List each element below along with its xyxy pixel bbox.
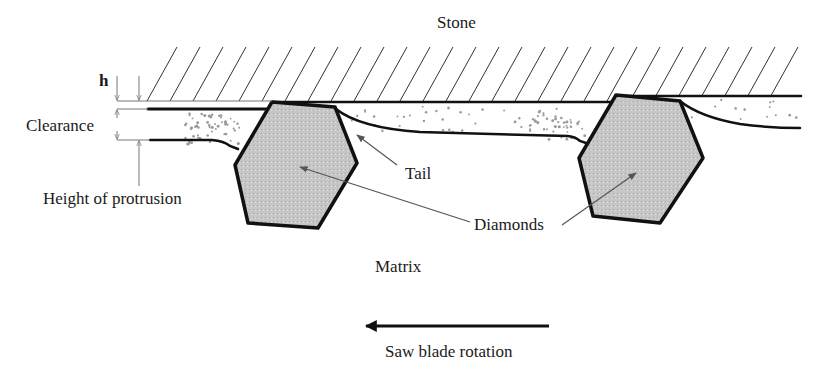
height-of-protrusion-label: Height of protrusion xyxy=(43,190,182,207)
saw-blade-rotation-label: Saw blade rotation xyxy=(385,343,512,360)
diamond-2 xyxy=(579,95,703,223)
diamonds-label: Diamonds xyxy=(474,216,544,233)
stone-surface xyxy=(148,96,801,109)
tail-1 xyxy=(336,109,586,143)
stone-hatching xyxy=(147,47,798,102)
tail-2 xyxy=(680,101,800,128)
tail-label: Tail xyxy=(405,165,431,182)
stone-label: Stone xyxy=(437,14,476,31)
matrix-label: Matrix xyxy=(375,258,421,275)
diamond-1 xyxy=(235,102,357,228)
h-label: h xyxy=(99,72,108,89)
clearance-label: Clearance xyxy=(26,117,94,134)
tail-leader xyxy=(357,135,397,165)
